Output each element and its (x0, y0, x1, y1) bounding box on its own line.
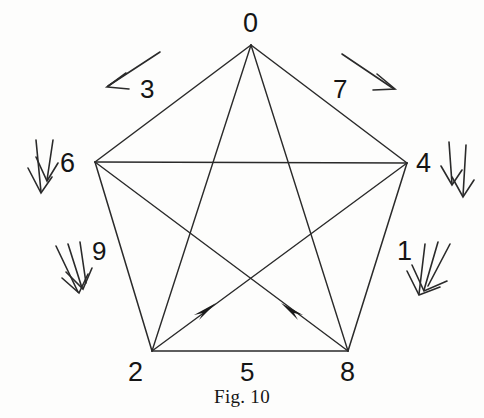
triple-arrow-lower-right (407, 242, 450, 295)
double-arrow-left (28, 140, 58, 193)
triple-arrow-lower-left-shaft-1 (56, 246, 78, 292)
vertex-label-2: 2 (128, 359, 143, 386)
figure-caption: Fig. 10 (0, 386, 484, 408)
figure-container: 0 4 8 2 6 3 7 9 1 5 Fig. 10 (0, 0, 484, 418)
arrowhead-8-to-6 (281, 303, 303, 320)
vertex-label-8: 8 (340, 359, 355, 386)
single-arrow-top-left-head (107, 73, 129, 89)
edge-0-4 (251, 45, 407, 163)
edge-label-5: 5 (240, 359, 254, 385)
triple-arrow-lower-left (56, 242, 92, 293)
edge-6-0 (95, 45, 251, 162)
double-arrow-right (441, 142, 474, 197)
diagonal-0-2 (152, 45, 251, 351)
diagonal-2-4 (152, 163, 407, 351)
triple-arrow-lower-left-head-1 (62, 274, 88, 293)
vertex-label-4: 4 (416, 150, 431, 177)
triple-arrow-lower-left-shaft-3 (80, 242, 86, 283)
diagonal-8-6 (95, 162, 348, 351)
diagonal-6-4 (95, 162, 407, 163)
single-arrow-top-right (342, 54, 395, 90)
edge-label-3: 3 (140, 76, 154, 102)
pentagram-diagram (0, 0, 484, 418)
double-arrow-right-shaft-2 (463, 145, 466, 196)
vertex-label-0: 0 (243, 10, 258, 37)
vertex-label-6: 6 (60, 150, 75, 177)
edge-label-9: 9 (92, 238, 106, 264)
triple-arrow-lower-right-shaft-2 (424, 242, 438, 290)
single-arrow-top-right-shaft (342, 54, 394, 89)
edge-label-7: 7 (333, 76, 347, 102)
edge-label-1: 1 (397, 238, 412, 265)
